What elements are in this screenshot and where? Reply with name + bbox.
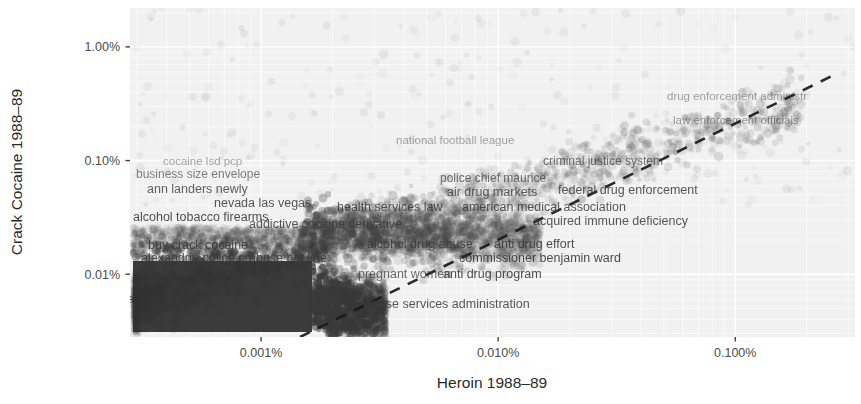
- scatter-plot-figure: drug enforcement administrlaw enforcemen…: [0, 0, 861, 404]
- point-label: abuse hot line: [249, 251, 327, 265]
- point-label: american medical association: [462, 200, 626, 214]
- point-label: law enforcement officials: [673, 114, 799, 126]
- point-label: federal drug enforcement: [558, 183, 698, 197]
- x-tick-label: 0.001%: [240, 346, 282, 360]
- point-label: nevada las vegas: [214, 196, 311, 210]
- point-label: abuse services administration: [365, 297, 530, 311]
- point-label: ann landers newly: [147, 182, 249, 196]
- point-label: alcohol drug abuse: [367, 237, 473, 251]
- point-label: commissioner benjamin ward: [459, 251, 621, 265]
- y-axis-title: Crack Cocaine 1988–89: [8, 89, 25, 255]
- point-label: health services law: [337, 200, 444, 214]
- point-label: alexandria police col: [141, 251, 254, 265]
- point-label: business size envelope: [136, 167, 260, 181]
- point-label: criminal justice system: [543, 154, 663, 168]
- y-tick-label: 0.01%: [85, 268, 120, 282]
- point-label: national football league: [396, 134, 514, 146]
- plot-svg: drug enforcement administrlaw enforcemen…: [0, 0, 861, 404]
- y-tick-label: 0.10%: [85, 154, 120, 168]
- point-label: air drug markets: [447, 185, 537, 199]
- point-label: police chief maurice: [440, 171, 546, 185]
- point-label: buy crack cocaine: [148, 238, 248, 252]
- point-label: acquired immune deficiency: [533, 214, 689, 228]
- point-label: anti drug program: [443, 267, 542, 281]
- point-label: pregnant women: [358, 267, 451, 281]
- point-label: cocaine lsd pcp: [163, 155, 242, 167]
- point-label: drug enforcement administr: [667, 90, 807, 102]
- x-tick-label: 0.010%: [477, 346, 519, 360]
- x-axis-title: Heroin 1988–89: [437, 374, 547, 391]
- x-tick-label: 0.100%: [714, 346, 756, 360]
- point-label: addictive cocaine derivative: [249, 217, 402, 231]
- y-tick-label: 1.00%: [85, 40, 120, 54]
- point-label: anti drug effort: [494, 237, 575, 251]
